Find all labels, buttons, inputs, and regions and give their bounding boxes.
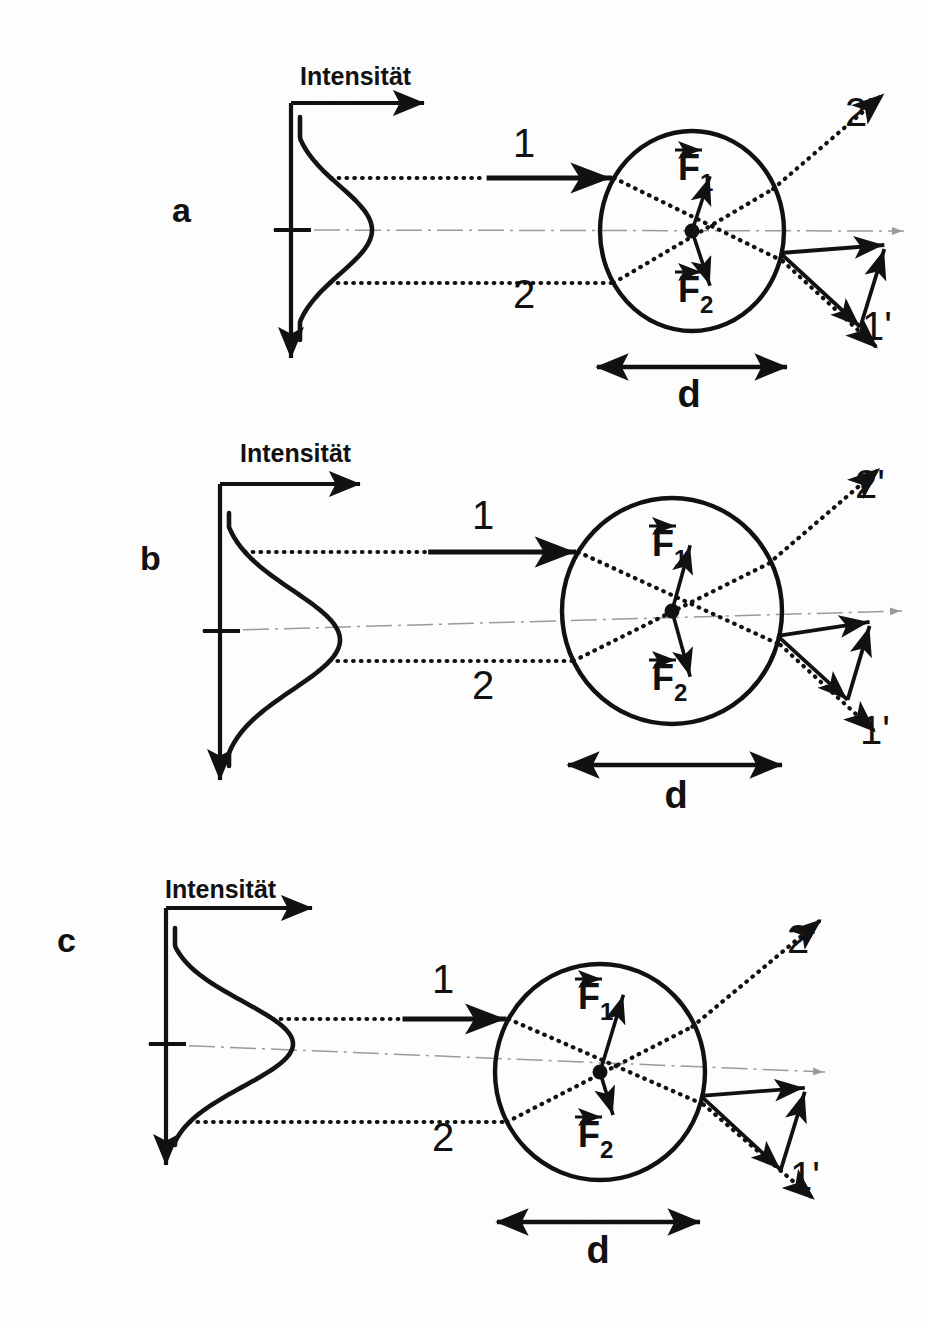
ray-label-2-prime-b: 2' — [855, 462, 885, 506]
force-label-F2-a: F — [678, 269, 700, 310]
axis-title-intensitaet-b: Intensität — [240, 439, 352, 467]
ray-label-1-prime-b: 1' — [860, 708, 890, 752]
ray-label-1-c: 1 — [432, 957, 454, 1001]
ray-label-2-prime-c: 2' — [787, 917, 817, 961]
ray-label-2-prime-a: 2' — [845, 90, 875, 134]
force-label-F2-a-subscript: 2 — [700, 291, 713, 318]
figure-root: F1F2dIntensität121'2'F1F2dIntensität121'… — [0, 0, 928, 1321]
axis-title-intensitaet-c: Intensität — [165, 875, 277, 903]
diameter-label-c: d — [586, 1229, 609, 1271]
ray-label-2-a: 2 — [513, 272, 535, 316]
panel-label-b: b — [140, 539, 161, 577]
diameter-label-b: d — [664, 774, 687, 816]
force-label-F1-c-subscript: 1 — [600, 998, 613, 1025]
panel-label-a: a — [172, 191, 192, 229]
force-label-F1-a: F — [678, 147, 700, 188]
ray-label-1-a: 1 — [513, 121, 535, 165]
ray-label-1-prime-c: 1' — [790, 1154, 820, 1198]
force-label-F2-b-subscript: 2 — [674, 679, 687, 706]
force-label-F1-a-subscript: 1 — [700, 169, 713, 196]
force-label-F1-c: F — [578, 976, 600, 1017]
ray-label-2-b: 2 — [472, 663, 494, 707]
physics-diagram-svg: F1F2dIntensität121'2'F1F2dIntensität121'… — [0, 0, 928, 1321]
force-label-F1-b-subscript: 1 — [674, 545, 687, 572]
force-label-F2-c-subscript: 2 — [600, 1136, 613, 1163]
force-label-F2-b: F — [652, 657, 674, 698]
axis-title-intensitaet-a: Intensität — [300, 62, 412, 90]
ray-label-2-c: 2 — [432, 1115, 454, 1159]
force-label-F1-b: F — [652, 523, 674, 564]
force-label-F2-c: F — [578, 1114, 600, 1155]
ray-label-1-prime-a: 1' — [862, 304, 892, 348]
panel-label-c: c — [57, 921, 76, 959]
diameter-label-a: d — [677, 373, 700, 415]
ray-label-1-b: 1 — [472, 493, 494, 537]
